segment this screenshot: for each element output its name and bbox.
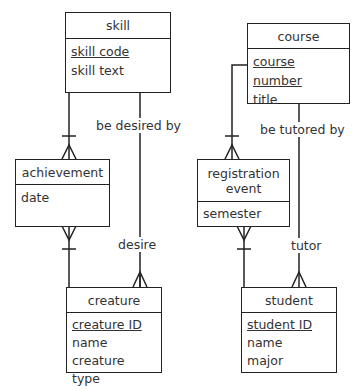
entity-attributes: skill code skill text	[66, 39, 170, 83]
attribute: name	[247, 334, 331, 352]
attribute: creature type	[72, 352, 156, 388]
relationship-label-be-desired-by: be desired by	[94, 118, 183, 133]
entity-title: student	[242, 288, 336, 313]
entity-achievement: achievement date	[15, 159, 110, 227]
attribute: date	[21, 188, 104, 207]
entity-attributes: creature ID name creature type	[67, 313, 161, 390]
relationship-label-tutor: tutor	[289, 238, 324, 253]
entity-attributes: course number title	[248, 49, 349, 112]
entity-course: course course number title	[247, 23, 350, 104]
entity-title: achievement	[16, 160, 109, 185]
primary-key-attribute: skill code	[71, 42, 165, 61]
relationship-label-desire: desire	[116, 237, 158, 252]
entity-attributes: semester	[198, 202, 289, 226]
entity-attributes: student ID name major	[242, 313, 336, 373]
entity-title: course	[248, 24, 349, 49]
entity-registration-event: registration event semester	[197, 159, 290, 227]
entity-title: creature	[67, 288, 161, 313]
entity-title: skill	[66, 13, 170, 39]
primary-key-attribute: course number	[253, 52, 344, 90]
attribute: semester	[203, 204, 284, 223]
entity-skill: skill skill code skill text	[65, 12, 171, 93]
entity-title: registration event	[198, 160, 289, 202]
attribute: name	[72, 334, 156, 352]
attribute: major	[247, 352, 331, 370]
attribute: title	[253, 90, 344, 109]
primary-key-attribute: creature ID	[72, 316, 156, 334]
entity-attributes: date	[16, 185, 109, 210]
primary-key-attribute: student ID	[247, 316, 331, 334]
relationship-label-be-tutored-by: be tutored by	[258, 122, 347, 137]
entity-creature: creature creature ID name creature type	[66, 287, 162, 373]
entity-student: student student ID name major	[241, 287, 337, 373]
attribute: skill text	[71, 61, 165, 80]
